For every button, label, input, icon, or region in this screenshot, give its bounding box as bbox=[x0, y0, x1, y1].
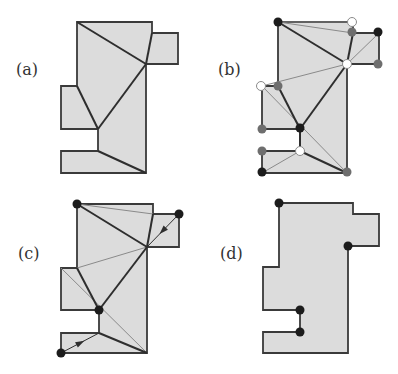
panel-label-d: (d) bbox=[220, 244, 243, 263]
polygon-shape bbox=[263, 203, 379, 353]
vertex-dot-black bbox=[274, 18, 283, 27]
panel-label-c: (c) bbox=[18, 244, 39, 263]
vertex-dot-white bbox=[348, 18, 357, 27]
panel-label-a: (a) bbox=[16, 60, 38, 79]
vertex-dot-grey bbox=[348, 28, 357, 37]
panel-c: (c) bbox=[18, 200, 184, 358]
vertex-dot-black bbox=[344, 242, 353, 251]
vertex-dot-black bbox=[73, 200, 82, 209]
vertex-dot-white bbox=[343, 60, 352, 69]
vertex-dot-black bbox=[175, 210, 184, 219]
panel-b: (b) bbox=[218, 18, 383, 177]
vertex-dot-black bbox=[296, 328, 305, 337]
vertex-dot-black bbox=[374, 28, 383, 37]
polygon-shape bbox=[61, 22, 178, 173]
vertex-dot-black bbox=[57, 349, 66, 358]
panel-a: (a) bbox=[16, 22, 178, 173]
vertex-dot-grey bbox=[374, 60, 383, 69]
vertex-dot-black bbox=[296, 306, 305, 315]
vertex-dot-grey bbox=[343, 168, 352, 177]
vertex-dot-white bbox=[257, 82, 266, 91]
vertex-dot-black bbox=[275, 199, 284, 208]
vertex-dot-white bbox=[296, 147, 305, 156]
vertex-dot-black bbox=[95, 306, 104, 315]
polygon-shape bbox=[262, 22, 379, 173]
vertex-dot-black bbox=[296, 124, 305, 133]
panel-label-b: (b) bbox=[218, 60, 241, 79]
polygon-triangulation-figure: (a) (b) (c) (d) bbox=[0, 0, 398, 374]
vertex-dot-grey bbox=[258, 125, 267, 134]
polygon-shape bbox=[61, 204, 179, 353]
vertex-dot-grey bbox=[258, 147, 267, 156]
panel-d: (d) bbox=[220, 199, 379, 354]
vertex-dot-grey bbox=[274, 82, 283, 91]
vertex-dot-black bbox=[258, 168, 267, 177]
